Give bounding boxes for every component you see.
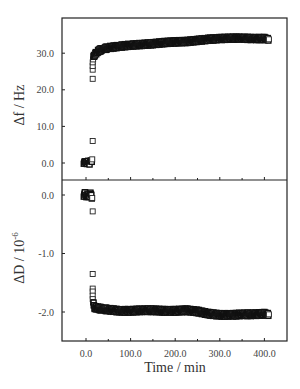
- top-y-tick-label: 30.0: [37, 48, 55, 59]
- x-tick-label: 300.0: [209, 348, 232, 359]
- bottom-y-axis-label-main: ΔD / 10: [12, 240, 27, 284]
- x-tick-label: 0.0: [80, 348, 93, 359]
- bottom-y-axis-label: ΔD / 10-6: [10, 232, 27, 284]
- top-y-tick-label: 20.0: [37, 84, 55, 95]
- bottom-y-axis-label-exponent: -6: [10, 232, 20, 240]
- bottom-y-tick-label: 0.0: [42, 190, 55, 201]
- x-tick-label: 400.0: [253, 348, 276, 359]
- top-y-axis-label: Δf / Hz: [12, 85, 27, 126]
- bottom-y-tick-label: -2.0: [38, 307, 54, 318]
- top-panel-data-points: [81, 34, 271, 167]
- x-axis-label: Time / min: [144, 360, 206, 375]
- plot-frames: [62, 18, 287, 341]
- bottom-y-tick-label: -1.0: [38, 248, 54, 259]
- qcm-chart: 0.0100.0200.0300.0400.00.010.020.030.00.…: [0, 0, 300, 389]
- top-y-tick-label: 10.0: [37, 121, 55, 132]
- x-tick-label: 200.0: [164, 348, 187, 359]
- top-y-tick-label: 0.0: [42, 158, 55, 169]
- x-tick-label: 100.0: [119, 348, 142, 359]
- bottom-panel-data-points: [81, 190, 271, 319]
